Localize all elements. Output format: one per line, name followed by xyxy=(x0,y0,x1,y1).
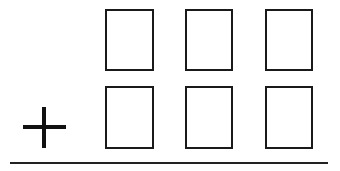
digit-box-r1-c2[interactable] xyxy=(185,9,233,71)
digit-box-r2-c1[interactable] xyxy=(105,86,154,149)
sum-line xyxy=(10,162,328,164)
digit-box-r1-c1[interactable] xyxy=(105,9,154,71)
digit-box-r2-c2[interactable] xyxy=(185,86,233,149)
digit-box-r1-c3[interactable] xyxy=(265,9,313,71)
plus-icon-vertical xyxy=(42,107,46,148)
digit-box-r2-c3[interactable] xyxy=(265,86,313,149)
